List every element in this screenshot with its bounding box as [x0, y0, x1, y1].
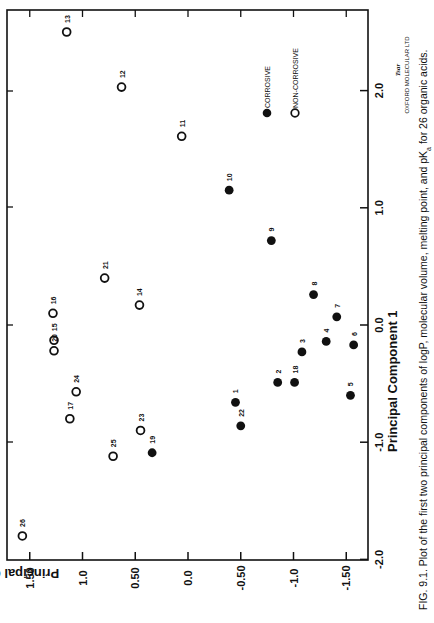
- point-label: 7: [334, 304, 341, 308]
- non-corrosive-point: 25: [109, 439, 117, 460]
- caption-text: FIG. 9.1. Plot of the first two principa…: [417, 151, 429, 610]
- open-circle-marker: [49, 309, 57, 317]
- pc1-tick-label: 2.0: [373, 83, 385, 98]
- non-corrosive-point: 11: [178, 120, 186, 140]
- point-label: 17: [67, 402, 74, 410]
- filled-circle-marker: [346, 391, 355, 400]
- pc2-axis-title: Principal Component 2: [0, 566, 59, 581]
- corrosive-point: 1: [231, 389, 240, 406]
- non-corrosive-point: 23: [137, 414, 145, 435]
- pc1-tick-label: 1.0: [373, 200, 385, 215]
- pc2-tick-label: 0.0: [182, 570, 194, 585]
- open-circle-marker: [18, 532, 26, 540]
- corrosive-point: 2: [273, 369, 282, 386]
- point-label: 24: [73, 375, 80, 383]
- point-label: 19: [149, 436, 156, 444]
- non-corrosive-point: 26: [18, 519, 26, 540]
- filled-circle-marker: [273, 378, 282, 387]
- legend: CORROSIVE NON-CORROSIVE: [263, 48, 299, 118]
- filled-circle-marker: [236, 421, 245, 430]
- point-label: 9: [268, 228, 275, 232]
- point-label: 26: [19, 519, 26, 527]
- pc2-tick-label: -1.0: [288, 569, 300, 588]
- point-label: 21: [102, 261, 109, 269]
- filled-circle-marker: [322, 337, 331, 346]
- open-circle-marker: [137, 427, 145, 435]
- open-circle-marker: [72, 388, 80, 396]
- data-points: 1234567891018192211121314151617202123242…: [18, 15, 358, 540]
- open-circle-marker: [101, 274, 109, 282]
- filled-circle-marker: [349, 341, 358, 350]
- corrosive-point: 5: [346, 382, 355, 399]
- logo-tsar: Tsar: [394, 63, 402, 76]
- point-label: 3: [299, 339, 306, 343]
- point-label: 8: [311, 282, 318, 286]
- non-corrosive-point: 17: [66, 402, 74, 423]
- pc1-tick-label: 0.0: [373, 317, 385, 332]
- point-label: 1: [232, 389, 239, 393]
- point-label: 15: [51, 323, 58, 331]
- point-label: 2: [275, 369, 282, 373]
- legend-non-corrosive-label: NON-CORROSIVE: [292, 48, 299, 108]
- point-label: 23: [138, 414, 145, 422]
- pc2-tick-label: 0.50: [129, 567, 141, 588]
- point-label: 13: [64, 15, 71, 23]
- open-circle-marker: [50, 347, 58, 355]
- non-corrosive-point: 14: [136, 288, 144, 309]
- open-circle-marker: [178, 132, 186, 140]
- corrosive-point: 9: [267, 228, 276, 245]
- point-label: 16: [50, 296, 57, 304]
- logo-company: OXFORD MOLECULAR LTD: [404, 36, 410, 114]
- filled-circle-marker: [231, 398, 240, 407]
- filled-circle-marker: [309, 290, 318, 299]
- point-label: 4: [323, 328, 330, 332]
- open-circle-marker: [136, 301, 144, 309]
- filled-circle-marker: [148, 448, 157, 457]
- pc1-axis-title: Principal Component 1: [385, 310, 400, 452]
- legend-non-corrosive-marker: [291, 109, 299, 117]
- point-label: 20: [51, 334, 58, 342]
- point-label: 18: [292, 366, 299, 374]
- point-label: 14: [136, 288, 143, 296]
- open-circle-marker: [66, 415, 74, 423]
- corrosive-point: 3: [298, 339, 307, 356]
- pc2-tick-label: -1.50: [340, 565, 352, 590]
- point-label: 25: [110, 439, 117, 447]
- pc2-tick-label: 1.0: [77, 570, 89, 585]
- open-circle-marker: [118, 83, 126, 91]
- corrosive-point: 8: [309, 282, 318, 299]
- pca-scatter-chart: 1.501.00.500.0-0.50-1.0-1.502.01.00.0-1.…: [0, 0, 434, 623]
- point-label: 12: [119, 70, 126, 78]
- filled-circle-marker: [332, 312, 341, 321]
- corrosive-point: 4: [322, 328, 331, 345]
- pc1-tick-label: -1.0: [373, 433, 385, 452]
- point-label: 22: [238, 409, 245, 417]
- pc2-tick-label: -0.50: [235, 565, 247, 590]
- open-circle-marker: [63, 28, 71, 36]
- legend-corrosive-marker: [263, 109, 272, 118]
- non-corrosive-point: 13: [63, 15, 71, 36]
- corrosive-point: 18: [290, 366, 299, 387]
- corrosive-point: 22: [236, 409, 245, 430]
- axis-tick-labels: 1.501.00.500.0-0.50-1.0-1.502.01.00.0-1.…: [24, 83, 385, 591]
- non-corrosive-point: 16: [49, 296, 57, 317]
- non-corrosive-point: 24: [72, 375, 80, 396]
- non-corrosive-point: 21: [101, 261, 109, 282]
- corrosive-point: 7: [332, 304, 341, 321]
- non-corrosive-point: 12: [118, 70, 126, 91]
- corrosive-point: 6: [349, 332, 358, 349]
- point-label: 6: [351, 332, 358, 336]
- point-label: 11: [179, 120, 186, 128]
- filled-circle-marker: [267, 236, 276, 245]
- point-label: 5: [347, 382, 354, 386]
- filled-circle-marker: [298, 348, 307, 357]
- filled-circle-marker: [290, 378, 299, 387]
- corrosive-point: 10: [225, 173, 234, 194]
- legend-corrosive-label: CORROSIVE: [264, 66, 271, 108]
- open-circle-marker: [109, 452, 117, 460]
- corrosive-point: 19: [148, 436, 157, 457]
- filled-circle-marker: [225, 186, 234, 195]
- caption-tail: for 26 organic acids.: [417, 50, 429, 147]
- pc1-tick-label: -2.0: [373, 550, 385, 569]
- point-label: 10: [226, 173, 233, 181]
